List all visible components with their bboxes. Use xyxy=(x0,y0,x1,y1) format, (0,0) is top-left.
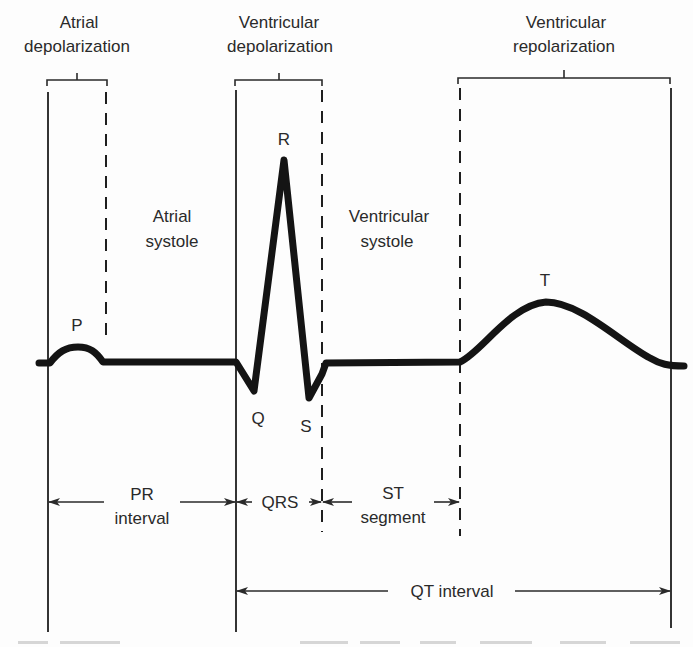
svg-text:interval: interval xyxy=(115,509,170,528)
svg-text:segment: segment xyxy=(360,508,425,527)
label-r-wave: R xyxy=(278,130,290,149)
bracket-atrial-depolarization xyxy=(47,73,107,86)
svg-text:systole: systole xyxy=(361,232,414,251)
svg-text:repolarization: repolarization xyxy=(513,37,615,56)
svg-text:depolarization: depolarization xyxy=(24,37,130,56)
svg-text:PR: PR xyxy=(130,485,154,504)
label-s-wave: S xyxy=(300,417,311,436)
svg-text:Ventricular: Ventricular xyxy=(526,13,607,32)
svg-text:depolarization: depolarization xyxy=(227,37,333,56)
svg-text:systole: systole xyxy=(146,232,199,251)
label-atrial-depolarization: Atrial depolarization xyxy=(24,13,130,56)
label-p-wave: P xyxy=(71,316,82,335)
label-ventricular-repolarization: Ventricular repolarization xyxy=(513,13,615,56)
dashed-markers xyxy=(106,88,460,536)
ecg-waveform xyxy=(39,160,684,398)
ecg-diagram: Atrial depolarization Ventricular depola… xyxy=(0,0,693,647)
svg-text:Ventricular: Ventricular xyxy=(349,207,430,226)
label-ventricular-systole: Ventricular systole xyxy=(349,207,430,251)
ecg-diagram-canvas: Atrial depolarization Ventricular depola… xyxy=(0,0,693,647)
label-pr-interval: PR interval xyxy=(115,485,170,528)
bracket-ventricular-repolarization xyxy=(458,70,670,84)
bracket-ventricular-depolarization xyxy=(235,73,322,86)
label-qrs: QRS xyxy=(262,493,299,512)
label-t-wave: T xyxy=(540,271,550,290)
label-st-segment: ST segment xyxy=(360,484,425,527)
cropped-caption-remnant xyxy=(18,641,680,644)
label-qt-interval: QT interval xyxy=(411,582,494,601)
svg-text:ST: ST xyxy=(382,484,404,503)
svg-text:Atrial: Atrial xyxy=(153,207,192,226)
label-q-wave: Q xyxy=(251,409,264,428)
svg-text:Atrial: Atrial xyxy=(60,13,99,32)
label-ventricular-depolarization: Ventricular depolarization xyxy=(227,13,333,56)
label-atrial-systole: Atrial systole xyxy=(146,207,199,251)
svg-text:Ventricular: Ventricular xyxy=(239,13,320,32)
